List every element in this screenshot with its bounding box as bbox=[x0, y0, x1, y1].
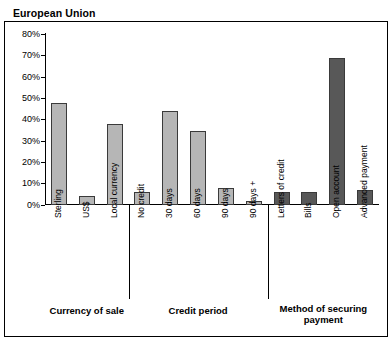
x-axis-category-label: Local currency bbox=[110, 162, 119, 217]
group-separator bbox=[268, 205, 269, 299]
y-axis-tick bbox=[41, 183, 45, 184]
y-axis-tick bbox=[41, 77, 45, 78]
y-axis-tick bbox=[41, 98, 45, 99]
group-label: Credit period bbox=[128, 305, 268, 316]
y-axis-tick-label: 70% bbox=[0, 51, 40, 60]
y-axis-tick-label: 40% bbox=[0, 115, 40, 124]
group-separator bbox=[129, 205, 130, 299]
y-axis-tick-label: 50% bbox=[0, 94, 40, 103]
y-axis-tick-label: 30% bbox=[0, 137, 40, 146]
x-axis-category-label: 30 days bbox=[165, 188, 174, 218]
x-axis-category-label: 90 days bbox=[221, 188, 230, 218]
x-axis-category-label: Open account bbox=[332, 165, 341, 218]
y-axis-tick bbox=[41, 205, 45, 206]
x-axis-category-label: Letters of credit bbox=[277, 159, 286, 218]
x-axis-category-label: No credit bbox=[137, 183, 146, 217]
y-axis-tick bbox=[41, 34, 45, 35]
plot-area: 80%70%60%50%40%30%20%10%0%SterlingUS$Loc… bbox=[0, 0, 392, 341]
x-axis-category-label: 60 days bbox=[193, 188, 202, 218]
group-label-line: payment bbox=[253, 314, 392, 325]
y-axis-tick bbox=[41, 162, 45, 163]
group-label: Method of securingpayment bbox=[253, 303, 392, 325]
x-axis-category-label: 90 days + bbox=[249, 180, 258, 217]
x-axis-category-label: US$ bbox=[82, 201, 91, 218]
y-axis-tick-label: 20% bbox=[0, 158, 40, 167]
x-axis-category-label: Sterling bbox=[54, 189, 63, 218]
y-axis-tick bbox=[41, 119, 45, 120]
y-axis-tick-label: 80% bbox=[0, 30, 40, 39]
y-axis-tick bbox=[41, 141, 45, 142]
y-axis-tick-label: 0% bbox=[0, 201, 40, 210]
y-axis-line bbox=[45, 33, 46, 205]
chart-figure: European Union 80%70%60%50%40%30%20%10%0… bbox=[0, 0, 392, 341]
y-axis-tick-label: 10% bbox=[0, 179, 40, 188]
x-axis-category-label: Bills bbox=[304, 202, 313, 218]
group-label-line: Method of securing bbox=[253, 303, 392, 314]
x-axis-category-label: Advanced payment bbox=[360, 145, 369, 218]
y-axis-tick-label: 60% bbox=[0, 73, 40, 82]
y-axis-tick bbox=[41, 55, 45, 56]
